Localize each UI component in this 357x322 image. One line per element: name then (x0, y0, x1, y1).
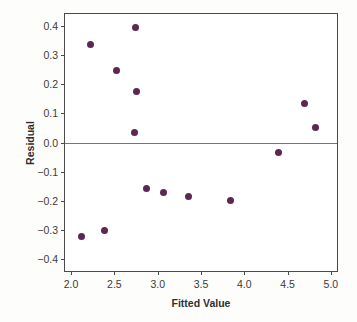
data-point (78, 233, 85, 240)
y-axis-tick-label: 0.2 (43, 78, 58, 90)
y-axis-tick-label: −0.2 (37, 195, 58, 207)
y-axis-title: Residual (24, 121, 36, 165)
y-axis-tick-label: −0.1 (37, 166, 58, 178)
plot-area: 0.40.30.20.10.0−0.1−0.2−0.3−0.42.02.53.0… (64, 13, 338, 272)
y-axis-tick-label: 0.4 (43, 20, 58, 32)
plot-inner (65, 14, 337, 271)
x-axis-tick (71, 271, 72, 275)
y-axis-tick (61, 201, 65, 202)
y-axis-tick (61, 259, 65, 260)
data-point (185, 193, 192, 200)
data-point (275, 149, 282, 156)
zero-reference-line (65, 143, 337, 144)
data-point (160, 189, 167, 196)
y-axis-tick-label: 0.3 (43, 49, 58, 61)
data-point (131, 129, 138, 136)
y-axis-tick (61, 143, 65, 144)
x-axis-tick-label: 4.0 (237, 278, 252, 290)
data-point (132, 24, 139, 31)
y-axis-tick-label: 0.0 (43, 137, 58, 149)
x-axis-tick-label: 5.0 (324, 278, 339, 290)
data-point (87, 41, 94, 48)
y-axis-tick (61, 172, 65, 173)
y-axis-tick-label: −0.3 (37, 224, 58, 236)
data-point (227, 197, 234, 204)
x-axis-tick-label: 2.0 (64, 278, 79, 290)
x-axis-tick (288, 271, 289, 275)
x-axis-tick (201, 271, 202, 275)
x-axis-tick-label: 3.0 (150, 278, 165, 290)
x-axis-tick (331, 271, 332, 275)
x-axis-tick (114, 271, 115, 275)
residual-plot-figure: 0.40.30.20.10.0−0.1−0.2−0.3−0.42.02.53.0… (0, 0, 357, 322)
data-point (301, 100, 308, 107)
data-point (101, 227, 108, 234)
x-axis-tick-label: 4.5 (280, 278, 295, 290)
y-axis-tick (61, 55, 65, 56)
data-point (143, 185, 150, 192)
y-axis-tick (61, 26, 65, 27)
data-point (133, 88, 140, 95)
y-axis-tick (61, 84, 65, 85)
y-axis-tick (61, 113, 65, 114)
data-point (113, 67, 120, 74)
x-axis-title: Fitted Value (64, 297, 338, 309)
y-axis-tick-label: −0.4 (37, 253, 58, 265)
x-axis-tick-label: 2.5 (107, 278, 122, 290)
y-axis-tick (61, 230, 65, 231)
x-axis-tick (158, 271, 159, 275)
data-point (312, 124, 319, 131)
y-axis-tick-label: 0.1 (43, 107, 58, 119)
x-axis-tick (244, 271, 245, 275)
x-axis-tick-label: 3.5 (194, 278, 209, 290)
